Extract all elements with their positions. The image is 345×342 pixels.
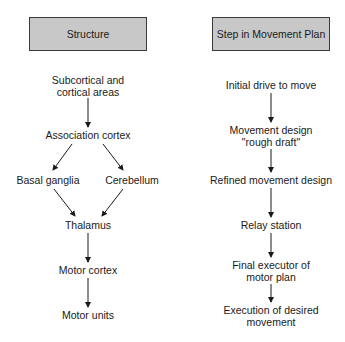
- node-basal-ganglia: Basal ganglia: [16, 174, 79, 186]
- node-association-cortex: Association cortex: [45, 129, 130, 141]
- arrow-association-to-basal: [53, 144, 72, 170]
- node-execution-line2: movement: [223, 316, 318, 328]
- node-final-line2: motor plan: [232, 271, 310, 283]
- node-design-line1: Movement design: [230, 124, 313, 136]
- node-subcortical-line2: cortical areas: [52, 86, 124, 98]
- structure-header-label: Structure: [67, 28, 110, 40]
- arrow-cerebellum-to-thalamus: [102, 189, 123, 216]
- node-execution-line1: Execution of desired: [223, 304, 318, 316]
- node-design-line2: "rough draft": [230, 136, 313, 148]
- node-thalamus: Thalamus: [65, 219, 111, 231]
- node-relay-station: Relay station: [241, 219, 302, 231]
- node-subcortical-cortical-areas: Subcortical and cortical areas: [52, 74, 124, 98]
- node-motor-units: Motor units: [62, 309, 114, 321]
- node-initial-drive: Initial drive to move: [226, 79, 316, 91]
- movement-plan-header-box: Step in Movement Plan: [212, 17, 330, 51]
- arrow-association-to-cerebellum: [103, 144, 123, 170]
- node-movement-design: Movement design "rough draft": [230, 124, 313, 148]
- node-final-line1: Final executor of: [232, 259, 310, 271]
- node-execution: Execution of desired movement: [223, 304, 318, 328]
- node-subcortical-line1: Subcortical and: [52, 74, 124, 86]
- movement-plan-header-label: Step in Movement Plan: [217, 28, 326, 40]
- arrow-layer: [0, 0, 345, 342]
- node-refined-design: Refined movement design: [210, 174, 332, 186]
- node-final-executor: Final executor of motor plan: [232, 259, 310, 283]
- node-cerebellum: Cerebellum: [105, 174, 159, 186]
- structure-header-box: Structure: [29, 17, 147, 51]
- arrow-basal-to-thalamus: [54, 189, 75, 216]
- node-motor-cortex: Motor cortex: [59, 264, 117, 276]
